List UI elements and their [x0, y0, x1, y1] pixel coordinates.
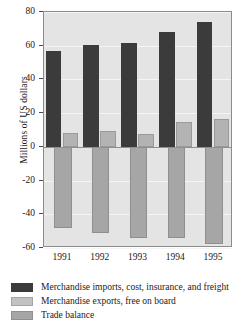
gridline: [44, 248, 231, 249]
y-axis-tick-label: -60: [22, 242, 35, 252]
legend-label: Merchandise exports, free on board: [41, 296, 176, 307]
y-axis: 806040200-20-40-60: [0, 11, 43, 247]
legend-swatch-icon: [11, 283, 33, 292]
bar-trade-balance-1994[interactable]: [168, 147, 186, 238]
x-axis-label-1993: 1993: [128, 252, 147, 262]
bar-trade-balance-1991[interactable]: [54, 147, 72, 228]
x-axis-label-1994: 1994: [166, 252, 185, 262]
legend-label: Trade balance: [41, 310, 94, 321]
bar-group-1995: [195, 12, 233, 246]
bar-trade-balance-1992[interactable]: [92, 147, 110, 233]
y-axis-tick: [39, 247, 43, 248]
bar-imports-1995[interactable]: [197, 22, 213, 147]
x-axis-label-1995: 1995: [204, 252, 223, 262]
y-axis-tick-label: -20: [22, 175, 35, 185]
bar-group-1993: [120, 12, 158, 246]
bar-exports-1993[interactable]: [138, 134, 154, 147]
bar-imports-1992[interactable]: [83, 45, 99, 147]
bar-imports-1994[interactable]: [159, 32, 175, 147]
bar-group-1992: [82, 12, 120, 246]
chart-legend: Merchandise imports, cost, insurance, an…: [11, 281, 245, 323]
y-axis-tick-label: 60: [26, 40, 36, 50]
legend-item-imports[interactable]: Merchandise imports, cost, insurance, an…: [11, 281, 245, 294]
bar-imports-1993[interactable]: [121, 43, 137, 147]
bar-trade-balance-1993[interactable]: [130, 147, 148, 238]
legend-item-trade-balance[interactable]: Trade balance: [11, 309, 245, 322]
bar-chart: Millions of US dollars 806040200-20-40-6…: [0, 0, 246, 323]
bar-trade-balance-1995[interactable]: [205, 147, 223, 244]
y-axis-tick-label: -40: [22, 208, 35, 218]
x-axis-label-1992: 1992: [90, 252, 109, 262]
bar-exports-1991[interactable]: [63, 133, 79, 147]
bar-group-1994: [157, 12, 195, 246]
bar-exports-1994[interactable]: [176, 122, 192, 146]
bar-exports-1995[interactable]: [214, 119, 230, 147]
x-axis-label-1991: 1991: [52, 252, 71, 262]
y-axis-tick-label: 0: [30, 141, 35, 151]
bar-group-1991: [44, 12, 82, 246]
legend-swatch-icon: [11, 311, 33, 320]
legend-swatch-icon: [11, 297, 33, 306]
x-axis: 19911992199319941995: [43, 252, 232, 268]
y-axis-tick-label: 80: [26, 6, 36, 16]
bar-imports-1991[interactable]: [46, 51, 62, 147]
y-axis-tick-label: 40: [26, 73, 36, 83]
plot-area: [43, 11, 232, 247]
y-axis-tick-label: 20: [26, 107, 36, 117]
bar-exports-1992[interactable]: [100, 131, 116, 147]
legend-item-exports[interactable]: Merchandise exports, free on board: [11, 295, 245, 308]
legend-label: Merchandise imports, cost, insurance, an…: [41, 282, 229, 293]
